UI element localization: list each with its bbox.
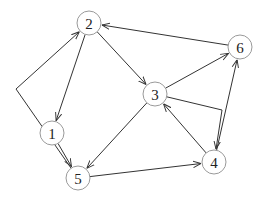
node-label: 1: [48, 126, 56, 142]
graph-diagram: 123456: [0, 0, 267, 201]
node-5: 5: [66, 166, 90, 190]
edge-6-to-2: [102, 25, 228, 45]
edge-3-to-6: [166, 53, 229, 88]
edges-layer: [16, 25, 237, 177]
node-label: 3: [151, 87, 159, 103]
node-label: 2: [85, 16, 93, 32]
edge-3-to-5: [87, 103, 147, 169]
node-label: 6: [236, 40, 244, 56]
node-4: 4: [202, 150, 226, 174]
edge-2-to-3: [97, 32, 146, 85]
node-label: 5: [74, 171, 82, 187]
edge-4-to-3: [164, 104, 207, 153]
node-1: 1: [40, 121, 64, 145]
nodes-layer: 123456: [40, 11, 252, 190]
node-6: 6: [228, 35, 252, 59]
node-2: 2: [77, 11, 101, 35]
edge-5-to-4: [90, 164, 201, 177]
graph-canvas: 123456: [0, 0, 267, 201]
edge-1-to-5: [58, 143, 72, 166]
node-label: 4: [210, 155, 218, 171]
edge-3-to-4: [167, 97, 222, 149]
edge-4-to-6: [217, 60, 238, 151]
node-3: 3: [143, 82, 167, 106]
edge-5-to-2: [16, 32, 79, 169]
edge-2-to-1: [56, 34, 85, 120]
